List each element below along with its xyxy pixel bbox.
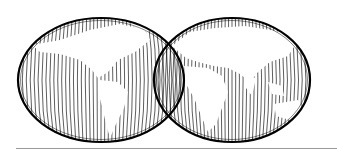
eastern-hemisphere	[147, 18, 317, 142]
bottom-rule	[16, 148, 337, 149]
western-hemisphere	[11, 18, 192, 142]
globe-illustration	[0, 0, 337, 151]
dual-hemisphere-map	[0, 0, 337, 151]
